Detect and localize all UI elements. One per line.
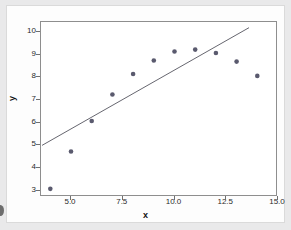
y-axis-tick-label: 6 xyxy=(14,118,36,126)
data-point[interactable] xyxy=(69,149,74,154)
data-point[interactable] xyxy=(193,47,198,52)
x-axis-tick-mark xyxy=(122,196,123,200)
plot-svg xyxy=(41,22,278,197)
y-axis-tick-mark xyxy=(36,190,40,191)
y-axis-tick-labels: 345678910 xyxy=(10,0,36,230)
data-point[interactable] xyxy=(152,58,157,63)
y-axis-tick-mark xyxy=(36,122,40,123)
y-axis-tick-mark xyxy=(36,144,40,145)
data-point[interactable] xyxy=(110,92,115,97)
y-axis-tick-mark xyxy=(36,54,40,55)
y-axis-title: y xyxy=(8,96,17,101)
y-axis-tick-mark xyxy=(36,167,40,168)
y-axis-tick-label: 10 xyxy=(14,27,36,35)
figure-canvas: 345678910 5.07.510.012.515.0 x y xyxy=(0,0,291,230)
data-point[interactable] xyxy=(89,119,94,124)
y-axis-tick-label: 4 xyxy=(14,163,36,171)
x-axis-title: x xyxy=(0,211,291,220)
y-axis-tick-label: 3 xyxy=(14,186,36,194)
x-axis-tick-mark xyxy=(277,196,278,200)
y-axis-tick-label: 8 xyxy=(14,72,36,80)
data-point[interactable] xyxy=(48,187,53,192)
y-axis-tick-mark xyxy=(36,99,40,100)
x-axis-tick-mark xyxy=(70,196,71,200)
y-axis-tick-label: 9 xyxy=(14,50,36,58)
data-point[interactable] xyxy=(131,72,136,77)
y-axis-tick-label: 5 xyxy=(14,140,36,148)
x-axis-tick-mark xyxy=(225,196,226,200)
regression-line xyxy=(42,28,249,146)
data-point[interactable] xyxy=(234,59,239,64)
scatter-plot-area[interactable] xyxy=(40,21,277,196)
y-axis-tick-mark xyxy=(36,76,40,77)
y-axis-tick-mark xyxy=(36,31,40,32)
data-point[interactable] xyxy=(255,74,260,79)
data-point[interactable] xyxy=(172,49,177,54)
x-axis-tick-mark xyxy=(174,196,175,200)
data-point[interactable] xyxy=(214,51,219,56)
y-axis-tick-label: 7 xyxy=(14,95,36,103)
